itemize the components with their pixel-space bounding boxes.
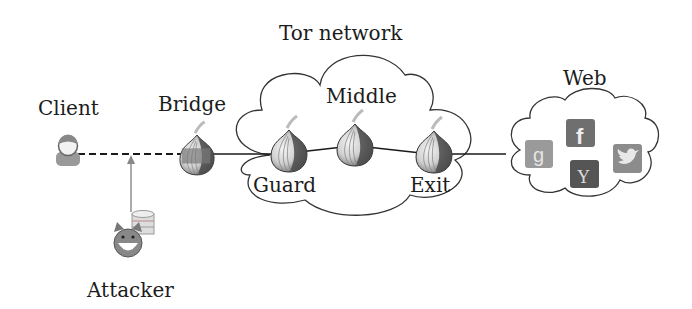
web-label: Web — [563, 66, 607, 90]
yahoo-icon: Y — [570, 160, 599, 188]
google-plus-icon: g — [525, 140, 553, 168]
google-glyph: g — [533, 144, 544, 166]
yahoo-glyph: Y — [577, 167, 590, 187]
attacker-devil-icon — [114, 222, 142, 257]
guard-label: Guard — [253, 173, 316, 197]
attacker-label: Attacker — [87, 278, 174, 302]
bridge-onion-icon — [180, 122, 214, 175]
client-user-icon — [56, 135, 80, 167]
middle-label: Middle — [326, 84, 397, 108]
facebook-glyph: f — [576, 124, 584, 149]
diagram-canvas: g f Y — [0, 0, 692, 309]
client-label: Client — [38, 96, 99, 120]
twitter-icon — [613, 144, 642, 173]
arrow-head-icon — [127, 155, 135, 164]
bridge-label: Bridge — [158, 92, 226, 116]
facebook-icon: f — [566, 119, 595, 149]
tor-network-title: Tor network — [279, 21, 402, 45]
exit-label: Exit — [410, 173, 450, 197]
